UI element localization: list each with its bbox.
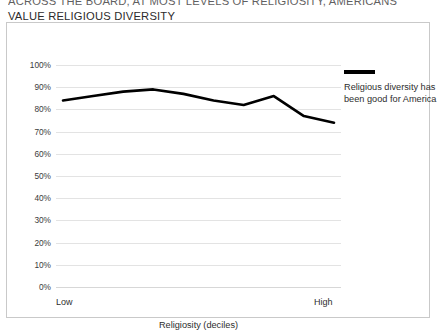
y-axis-tick-label: 40% (9, 193, 51, 203)
x-axis-high-label: High (314, 297, 333, 307)
y-axis-tick-label: 30% (9, 215, 51, 225)
y-axis-tick-label: 70% (9, 127, 51, 137)
series-line-religious-diversity (63, 89, 334, 122)
y-axis-tick-label: 90% (9, 82, 51, 92)
x-axis-low-label: Low (56, 297, 73, 307)
legend-label: Religious diversity has been good for Am… (344, 81, 438, 106)
y-axis-tick-label: 60% (9, 149, 51, 159)
legend-swatch-icon (344, 70, 375, 74)
line-series-svg (56, 65, 341, 287)
y-axis-tick-label: 20% (9, 238, 51, 248)
y-axis-tick-label: 50% (9, 171, 51, 181)
chart-card: 0%10%20%30%40%50%60%70%80%90%100% Religi… (6, 22, 430, 318)
y-axis-tick-label: 80% (9, 104, 51, 114)
page-title: ACROSS THE BOARD, AT MOST LEVELS OF RELI… (8, 0, 432, 24)
legend: Religious diversity has been good for Am… (344, 70, 438, 106)
x-axis-title: Religiosity (deciles) (56, 320, 341, 330)
gridline (56, 287, 341, 288)
y-axis-tick-label: 0% (9, 282, 51, 292)
headline-line-1: ACROSS THE BOARD, AT MOST LEVELS OF RELI… (8, 0, 432, 9)
y-axis: 0%10%20%30%40%50%60%70%80%90%100% (7, 65, 51, 287)
y-axis-tick-label: 10% (9, 260, 51, 270)
y-axis-tick-label: 100% (9, 60, 51, 70)
